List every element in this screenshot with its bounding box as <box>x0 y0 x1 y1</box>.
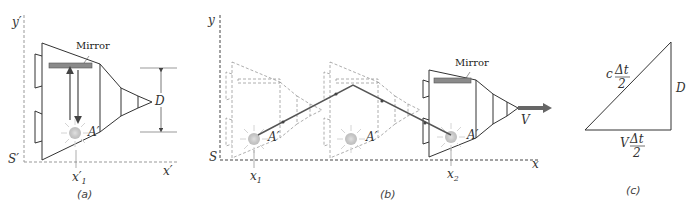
mirror-b <box>434 78 471 83</box>
light-source-3-icon <box>437 123 465 151</box>
caption-a: (a) <box>77 188 92 201</box>
x2-label: x2 <box>447 167 459 183</box>
side-label: D <box>675 81 686 95</box>
light-source-icon <box>61 119 89 147</box>
hyp-num: Δt <box>614 63 629 77</box>
triangle <box>585 42 671 130</box>
source-label-2: A′ <box>365 130 378 144</box>
diagram-canvas: y′ x′ S′ Mirror A′ x′1 D (a) y <box>0 0 687 207</box>
x-prime-label: x′ <box>163 164 173 178</box>
x1-prime-label: x′1 <box>72 170 87 186</box>
velocity-arrowhead <box>543 103 552 113</box>
source-label-1: A′ <box>267 130 280 144</box>
origin-s: S <box>209 150 217 164</box>
mirror-b-leader <box>466 72 470 78</box>
panel-b: y x S A′ A′ <box>207 13 552 201</box>
base-num: Δt <box>629 132 644 146</box>
light-source-2-icon <box>337 125 365 153</box>
mirror-label: Mirror <box>76 40 110 51</box>
spaceship <box>35 43 152 160</box>
velocity-label: V <box>521 113 531 127</box>
caption-c: (c) <box>626 184 641 197</box>
caption-b: (b) <box>380 188 396 201</box>
light-source-1-icon <box>240 125 268 153</box>
base-coef: V <box>620 136 630 150</box>
x-label: x <box>532 157 539 171</box>
panel-a: y′ x′ S′ Mirror A′ x′1 D (a) <box>8 15 178 201</box>
y-label: y <box>207 13 215 27</box>
panel-c: c Δt 2 D V Δt 2 (c) <box>585 42 686 197</box>
source-label-3: A′ <box>466 128 479 142</box>
base-den: 2 <box>632 146 641 160</box>
y-prime-label: y′ <box>11 15 22 29</box>
hyp-den: 2 <box>617 77 626 91</box>
mirror-b-label: Mirror <box>455 57 489 68</box>
source-label: A′ <box>87 125 100 139</box>
x1-label: x1 <box>250 169 262 185</box>
hyp-coef: c <box>606 67 613 81</box>
d-label: D <box>154 94 165 108</box>
light-path <box>258 85 451 135</box>
mirror <box>49 63 92 68</box>
origin-s-prime: S′ <box>8 152 19 166</box>
